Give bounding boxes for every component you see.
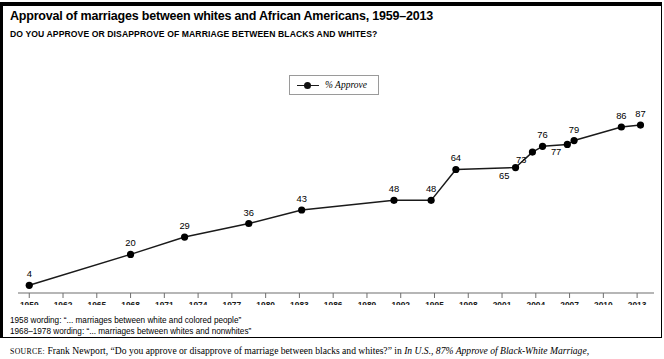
chart-page: Approval of marriages between whites and… [0,0,664,359]
footnote-1968-1978-wording: 1968–1978 wording: “... marriages betwee… [10,327,251,336]
source-line: SOURCE: Frank Newport, “Do you approve o… [10,345,589,356]
legend-marker-icon [304,82,311,89]
source-text: Frank Newport, “Do you approve or disapp… [45,345,404,356]
source-prefix: SOURCE: [10,347,45,356]
chart-legend: % Approve [289,75,379,95]
footnote-1958-wording: 1958 wording: “... marriages between whi… [10,316,241,325]
chart-subtitle: DO YOU APPROVE OR DISAPPROVE OF MARRIAGE… [10,29,377,39]
legend-label: % Approve [325,80,367,90]
page-title: Approval of marriages between whites and… [10,9,433,23]
content-frame [2,2,662,338]
source-italic-title: In U.S., 87% Approve of Black-White Marr… [404,345,589,356]
